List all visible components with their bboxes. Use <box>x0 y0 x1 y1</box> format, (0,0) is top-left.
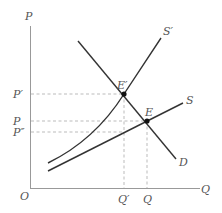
price-tick-p-prime: P′ <box>12 88 23 101</box>
origin-label: O <box>20 190 29 203</box>
supply-demand-diagram: P Q O S′ S D E′ E P′ P P″ Q′ Q <box>0 0 222 213</box>
price-tick-p-double-prime: P″ <box>12 126 25 139</box>
demand-curve <box>78 41 176 159</box>
diagram-canvas: P Q O S′ S D E′ E P′ P P″ Q′ Q <box>0 0 222 213</box>
price-axis-label: P <box>24 10 33 23</box>
new-equilibrium-label: E′ <box>116 79 128 92</box>
equilibrium-label: E <box>144 106 153 119</box>
demand-label: D <box>178 156 188 169</box>
supply-shifted-curve <box>48 38 161 163</box>
quantity-tick-q-prime: Q′ <box>118 193 130 206</box>
supply-label: S <box>186 94 194 107</box>
equilibrium-point <box>144 118 149 123</box>
quantity-axis-label: Q <box>201 183 210 196</box>
supply-shifted-label: S′ <box>163 25 174 38</box>
quantity-tick-q: Q <box>143 193 152 206</box>
new-equilibrium-point <box>121 91 126 96</box>
supply-curve <box>48 103 183 171</box>
